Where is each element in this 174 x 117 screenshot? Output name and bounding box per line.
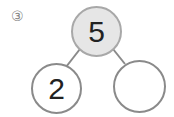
- part-circle-right-blank[interactable]: [113, 60, 166, 113]
- part-circle-left: 2: [31, 63, 82, 114]
- whole-circle: 5: [71, 6, 122, 57]
